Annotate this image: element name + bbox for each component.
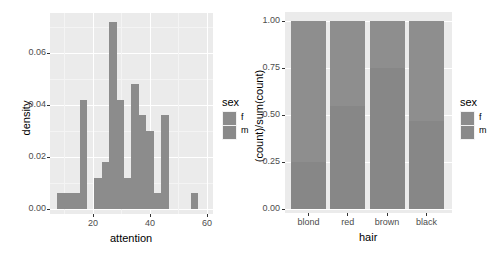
x-tick-label: black bbox=[406, 217, 446, 227]
histogram-bar bbox=[57, 193, 64, 209]
proportion-plot-area bbox=[285, 12, 452, 213]
bar-segment-f bbox=[330, 21, 365, 106]
histogram-bar bbox=[65, 193, 72, 209]
proportion-panel: (count)/sum(count) hair 0.000.250.500.75… bbox=[248, 0, 495, 254]
legend-key-m bbox=[222, 125, 237, 140]
y-tick-mark bbox=[282, 162, 285, 163]
legend-swatch-f bbox=[461, 112, 474, 125]
y-tick-mark bbox=[47, 105, 50, 106]
bar-segment-m bbox=[291, 162, 326, 209]
minor-gridline-y bbox=[50, 27, 213, 28]
y-tick-label: 0.00 bbox=[22, 203, 46, 213]
histogram-bar bbox=[146, 131, 153, 209]
legend-label-f: f bbox=[479, 112, 482, 122]
bar-segment-f bbox=[291, 21, 326, 162]
y-tick-mark bbox=[47, 157, 50, 158]
x-tick-label: blond bbox=[289, 217, 329, 227]
legend-key-f bbox=[460, 111, 475, 126]
histogram-plot-area bbox=[50, 13, 213, 214]
histogram-bar bbox=[131, 84, 138, 209]
histogram-bar bbox=[154, 193, 161, 209]
y-tick-mark bbox=[282, 115, 285, 116]
major-gridline-x bbox=[93, 13, 94, 214]
minor-gridline-x bbox=[64, 13, 65, 214]
bar-segment-f bbox=[409, 21, 444, 121]
y-axis-title: density bbox=[20, 88, 32, 148]
y-tick-mark bbox=[47, 209, 50, 210]
x-tick-mark bbox=[150, 214, 151, 217]
y-tick-mark bbox=[47, 53, 50, 54]
legend-title: sex bbox=[222, 96, 239, 108]
x-tick-label: 40 bbox=[140, 218, 160, 228]
x-tick-label: brown bbox=[367, 217, 407, 227]
histogram-bar bbox=[80, 100, 87, 209]
legend-swatch-m bbox=[223, 126, 236, 139]
y-tick-mark bbox=[282, 21, 285, 22]
y-tick-label: 0.04 bbox=[22, 99, 46, 109]
y-tick-mark bbox=[282, 209, 285, 210]
histogram-bar bbox=[161, 115, 168, 209]
legend-title: sex bbox=[460, 96, 477, 108]
bar-segment-f bbox=[370, 21, 405, 68]
legend-swatch-m bbox=[461, 126, 474, 139]
bar-segment-m bbox=[330, 106, 365, 209]
histogram-bar bbox=[124, 178, 131, 209]
legend-key-m bbox=[460, 125, 475, 140]
major-gridline-x bbox=[207, 13, 208, 214]
x-tick-mark bbox=[93, 214, 94, 217]
x-tick-mark bbox=[207, 214, 208, 217]
minor-gridline-y bbox=[50, 79, 213, 80]
x-tick-mark bbox=[347, 213, 348, 216]
histogram-bar bbox=[117, 100, 124, 209]
x-tick-mark bbox=[426, 213, 427, 216]
y-tick-label: 0.06 bbox=[22, 47, 46, 57]
minor-gridline-x bbox=[178, 13, 179, 214]
x-tick-label: 20 bbox=[83, 218, 103, 228]
y-tick-label: 0.50 bbox=[254, 109, 280, 119]
legend-key-f bbox=[222, 111, 237, 126]
histogram-bar bbox=[191, 193, 198, 209]
legend-label-f: f bbox=[241, 112, 244, 122]
y-tick-label: 0.02 bbox=[22, 151, 46, 161]
histogram-bar bbox=[109, 22, 116, 209]
x-tick-label: 60 bbox=[197, 218, 217, 228]
x-axis-title: attention bbox=[110, 232, 152, 244]
x-tick-label: red bbox=[328, 217, 368, 227]
histogram-bar bbox=[139, 115, 146, 209]
bar-segment-m bbox=[370, 68, 405, 209]
histogram-bar bbox=[72, 193, 79, 209]
x-tick-mark bbox=[387, 213, 388, 216]
y-tick-label: 0.25 bbox=[254, 156, 280, 166]
x-tick-mark bbox=[308, 213, 309, 216]
x-axis-title: hair bbox=[359, 231, 377, 243]
histogram-bar bbox=[94, 178, 101, 209]
y-tick-label: 0.75 bbox=[254, 62, 280, 72]
y-tick-label: 1.00 bbox=[254, 15, 280, 25]
bar-segment-m bbox=[409, 121, 444, 209]
histogram-panel: density attention 0.000.020.040.06 20406… bbox=[0, 0, 248, 254]
histogram-bar bbox=[102, 162, 109, 209]
legend-swatch-f bbox=[223, 112, 236, 125]
y-tick-label: 0.00 bbox=[254, 203, 280, 213]
y-tick-mark bbox=[282, 68, 285, 69]
major-gridline-y bbox=[50, 53, 213, 54]
legend-label-m: m bbox=[479, 125, 487, 135]
